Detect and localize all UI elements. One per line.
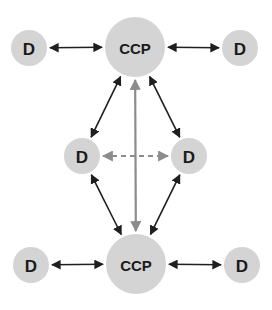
node-label: CCP (120, 257, 152, 274)
node-label: D (183, 148, 195, 167)
node-label: D (234, 40, 246, 59)
arrow-ccp-top-to-ccp-bottom (135, 80, 136, 231)
node-label: D (23, 40, 35, 59)
node-ccp-top: CCP (105, 17, 165, 77)
arrow-ccp-top-to-d-mid-left (91, 77, 120, 137)
node-label: D (25, 257, 37, 276)
node-d-bottom-left: D (13, 247, 49, 283)
arrow-ccp-top-to-d-mid-right (150, 77, 180, 138)
node-d-mid-left: D (64, 138, 100, 174)
node-label: D (236, 257, 248, 276)
node-d-top-right: D (222, 30, 258, 66)
ccp-network-diagram: DCCPDDDDCCPD (0, 0, 272, 310)
node-d-bottom-right: D (224, 247, 260, 283)
arrow-d-mid-right-to-ccp-bottom (151, 175, 180, 235)
node-d-top-left: D (11, 30, 47, 66)
node-label: CCP (119, 40, 151, 57)
node-d-mid-right: D (171, 138, 207, 174)
node-label: D (76, 148, 88, 167)
arrow-d-mid-left-to-ccp-bottom (91, 175, 121, 235)
node-ccp-bottom: CCP (106, 234, 166, 294)
